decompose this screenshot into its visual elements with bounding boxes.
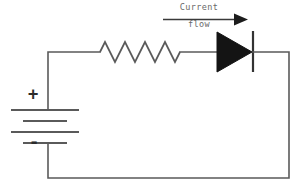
- current-flow-label: Current flow: [163, 2, 235, 29]
- resistor-zigzag: [100, 42, 180, 62]
- circuit-diagram-canvas: Current flow + -: [0, 0, 304, 188]
- battery-positive-terminal-label: +: [28, 86, 38, 103]
- circuit-schematic: [0, 0, 304, 188]
- battery-symbol: [11, 110, 79, 143]
- diode-anode-triangle: [217, 32, 252, 72]
- current-flow-label-line2: flow: [163, 19, 235, 29]
- battery-negative-terminal-label: -: [29, 134, 39, 151]
- diode-symbol: [217, 31, 253, 72]
- current-flow-arrow-head: [234, 14, 248, 26]
- current-flow-label-line1: Current: [163, 2, 235, 12]
- wire-left-vertical-top: [48, 52, 100, 110]
